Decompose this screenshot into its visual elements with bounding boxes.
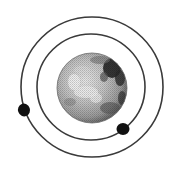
planet: [57, 53, 127, 123]
inner-moon: [117, 123, 130, 135]
planet-orbit-diagram: [0, 0, 178, 171]
outer-moon: [16, 102, 32, 118]
